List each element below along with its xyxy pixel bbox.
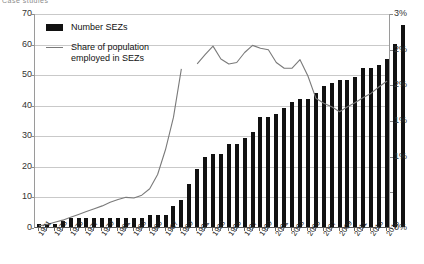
y-tick-right xyxy=(390,50,393,51)
y-tick-right xyxy=(390,14,393,15)
x-tick xyxy=(346,228,347,231)
y-tick-left xyxy=(31,228,34,229)
bar xyxy=(393,44,397,227)
y-tick-label-left: 50 xyxy=(6,70,32,79)
legend-label-line: Share of population employed in SEZs xyxy=(71,42,149,64)
y-tick-label-left: 70 xyxy=(6,9,32,18)
y-tick-right xyxy=(390,157,393,158)
y-tick-label-right: 1% xyxy=(394,152,422,161)
x-tick xyxy=(78,228,79,231)
y-tick-label-left: 0 xyxy=(6,223,32,232)
line-segment-2 xyxy=(197,45,387,111)
y-tick-label-left: 60 xyxy=(6,40,32,49)
x-tick xyxy=(125,228,126,231)
line-segment-1 xyxy=(39,69,181,226)
y-tick-right xyxy=(390,85,393,86)
x-tick xyxy=(46,228,47,231)
x-tick xyxy=(62,228,63,231)
clipped-page-header: Case studies xyxy=(0,0,424,8)
clipped-header-text: Case studies xyxy=(0,0,424,5)
y-tick-left xyxy=(31,45,34,46)
bar xyxy=(401,25,405,227)
y-tick-label-left: 10 xyxy=(6,192,32,201)
y-tick-left xyxy=(31,167,34,168)
y-tick-left xyxy=(31,75,34,76)
x-tick xyxy=(157,228,158,231)
y-tick-label-right: 1% xyxy=(394,116,422,125)
x-tick xyxy=(141,228,142,231)
legend-item-bars: Number SEZs xyxy=(46,22,149,33)
x-tick xyxy=(109,228,110,231)
x-tick xyxy=(220,228,221,231)
x-tick xyxy=(236,228,237,231)
x-tick xyxy=(315,228,316,231)
y-tick-label-left: 30 xyxy=(6,131,32,140)
y-tick-left xyxy=(31,14,34,15)
x-tick xyxy=(172,228,173,231)
y-tick-left xyxy=(31,136,34,137)
legend-label-line-2: employed in SEZs xyxy=(71,53,149,64)
x-tick xyxy=(252,228,253,231)
legend-label-line-1: Share of population xyxy=(71,42,149,53)
y-tick-left xyxy=(31,197,34,198)
y-tick-label-right: 2% xyxy=(394,80,422,89)
legend-item-line: Share of population employed in SEZs xyxy=(46,42,149,64)
legend: Number SEZs Share of population employed… xyxy=(46,22,149,73)
x-tick xyxy=(283,228,284,231)
y-tick-label-left: 20 xyxy=(6,162,32,171)
x-tick xyxy=(188,228,189,231)
y-tick-label-left: 40 xyxy=(6,101,32,110)
x-tick xyxy=(204,228,205,231)
x-tick xyxy=(362,228,363,231)
y-tick-right xyxy=(390,121,393,122)
x-tick xyxy=(331,228,332,231)
x-tick xyxy=(267,228,268,231)
x-tick xyxy=(299,228,300,231)
line-swatch-icon xyxy=(46,47,63,48)
y-tick-right xyxy=(390,192,393,193)
bar-swatch-icon xyxy=(46,24,63,31)
y-tick-left xyxy=(31,106,34,107)
y-tick-label-right: 2% xyxy=(394,45,422,54)
sez-chart: Case studies 706050403020100 3%2%2%1%1%0… xyxy=(0,0,424,264)
y-tick-label-right: 3% xyxy=(394,9,422,18)
x-tick xyxy=(378,228,379,231)
legend-label-bars: Number SEZs xyxy=(71,22,128,33)
x-tick xyxy=(93,228,94,231)
